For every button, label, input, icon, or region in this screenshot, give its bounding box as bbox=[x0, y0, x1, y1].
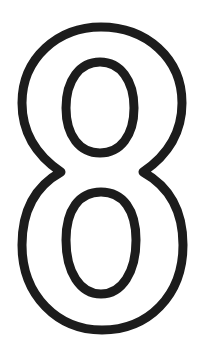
lower-counter bbox=[66, 192, 136, 294]
numeral-eight-figure: 8 bbox=[0, 0, 207, 358]
outer-contour bbox=[22, 27, 183, 330]
upper-counter bbox=[66, 62, 134, 153]
eight-outline-icon bbox=[0, 0, 207, 358]
